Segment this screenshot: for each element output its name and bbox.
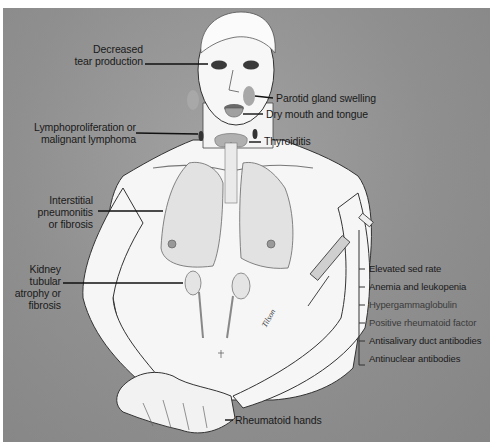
label-line: atrophy or — [3, 287, 61, 299]
parotid-right — [243, 86, 255, 106]
trachea — [225, 143, 237, 203]
lab-item-rheumatoid-factor: Positive rheumatoid factor — [369, 317, 476, 329]
label-line: Interstitial — [3, 194, 93, 206]
illustration-canvas: Tilson Decrea — [3, 8, 490, 442]
left-kidney — [185, 271, 201, 295]
label-lymphoproliferation: Lymphoproliferation or malignant lymphom… — [3, 121, 136, 145]
label-parotid: Parotid gland swelling — [276, 92, 376, 104]
label-line: pneumonitis — [3, 206, 93, 218]
lab-item-antisalivary: Antisalivary duct antibodies — [369, 335, 481, 347]
lab-item-antinuclear: Antinuclear antibodies — [369, 353, 460, 365]
right-kidney — [232, 273, 250, 299]
lab-item-hypergammaglobulin: Hypergammaglobulin — [369, 299, 457, 311]
label-line: Lymphoproliferation or — [3, 121, 136, 133]
label-thyroiditis: Thyroiditis — [264, 135, 311, 147]
lab-item-sed-rate: Elevated sed rate — [369, 263, 441, 275]
label-interstitial-pneumonitis: Interstitial pneumonitis or fibrosis — [3, 194, 93, 230]
parotid-left — [187, 90, 199, 110]
label-line: malignant lymphoma — [3, 133, 136, 145]
label-line: or fibrosis — [3, 218, 93, 230]
left-eye — [211, 61, 227, 70]
lab-item-anemia: Anemia and leukopenia — [369, 281, 466, 293]
right-eye — [243, 61, 259, 70]
label-dry-mouth: Dry mouth and tongue — [266, 108, 368, 120]
label-line: tear production — [63, 55, 143, 67]
label-line: tubular — [3, 275, 61, 287]
label-line: Kidney — [3, 263, 61, 275]
label-tear-production: Decreased tear production — [63, 43, 143, 67]
label-line: Decreased — [63, 43, 143, 55]
label-rheumatoid-hands: Rheumatoid hands — [235, 414, 322, 426]
label-kidney: Kidney tubular atrophy or fibrosis — [3, 263, 61, 311]
label-line: fibrosis — [3, 299, 61, 311]
